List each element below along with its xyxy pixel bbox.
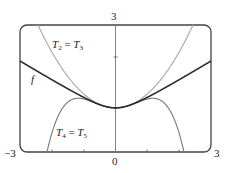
plot-area — [0, 0, 228, 173]
label-t4-t5: T4 = T5 — [56, 127, 87, 140]
x-max-label: 3 — [214, 148, 220, 159]
label-t2-t3: T2 = T3 — [52, 39, 83, 52]
label-f: f — [31, 74, 34, 85]
x-min-label: −3 — [4, 148, 16, 159]
x-zero-label: 0 — [112, 156, 118, 167]
y-max-label: 3 — [111, 11, 117, 22]
